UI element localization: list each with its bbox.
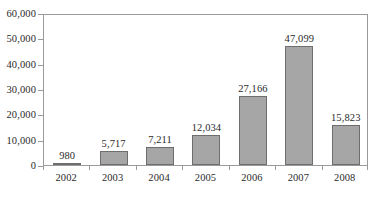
bar-group: 27,166 — [230, 15, 276, 165]
x-axis-tick-mark — [275, 166, 276, 170]
x-axis-tick-labels: 2002200320042005200620072008 — [43, 172, 368, 192]
y-axis-tick-label: 0 — [0, 161, 36, 171]
y-axis-tick-label: 40,000 — [0, 60, 36, 70]
bar-group: 980 — [44, 15, 90, 165]
bar — [239, 96, 267, 165]
bar-value-label: 7,211 — [148, 134, 172, 145]
plot-area: 9805,7177,21112,03427,16647,09915,823 — [43, 14, 368, 166]
bar-group: 47,099 — [276, 15, 322, 165]
bar — [146, 147, 174, 165]
bar — [192, 135, 220, 165]
bar-chart: 010,00020,00030,00040,00050,00060,000 98… — [0, 0, 378, 197]
bar-group: 5,717 — [90, 15, 136, 165]
bars-layer: 9805,7177,21112,03427,16647,09915,823 — [44, 15, 367, 165]
bar — [285, 46, 313, 165]
bar-group: 7,211 — [137, 15, 183, 165]
x-axis-tick-mark — [43, 166, 44, 170]
bar — [53, 163, 81, 165]
bar — [332, 125, 360, 165]
x-axis-tick-mark — [367, 166, 368, 170]
x-axis-tick-label: 2002 — [43, 172, 89, 184]
bar-value-label: 15,823 — [331, 112, 360, 123]
x-axis-tick-label: 2005 — [182, 172, 228, 184]
bar-value-label: 12,034 — [192, 122, 221, 133]
x-axis-tick-mark — [136, 166, 137, 170]
bar-group: 15,823 — [323, 15, 369, 165]
bar-group: 12,034 — [183, 15, 229, 165]
x-axis-tick-mark — [182, 166, 183, 170]
bar — [100, 151, 128, 165]
y-axis-tick-label: 30,000 — [0, 85, 36, 95]
bar-value-label: 47,099 — [285, 33, 314, 44]
y-axis-tick-label: 20,000 — [0, 110, 36, 120]
bar-value-label: 5,717 — [102, 138, 126, 149]
y-axis-tick-label: 10,000 — [0, 136, 36, 146]
bar-value-label: 27,166 — [238, 83, 267, 94]
y-axis-tick-label: 50,000 — [0, 34, 36, 44]
x-axis-tick-marks — [43, 166, 368, 171]
x-axis-tick-label: 2006 — [229, 172, 275, 184]
x-axis-tick-label: 2007 — [275, 172, 321, 184]
x-axis-tick-mark — [322, 166, 323, 170]
bar-value-label: 980 — [59, 150, 75, 161]
x-axis-tick-mark — [89, 166, 90, 170]
y-axis-tick-labels: 010,00020,00030,00040,00050,00060,000 — [0, 0, 36, 197]
x-axis-tick-mark — [229, 166, 230, 170]
x-axis-tick-label: 2003 — [89, 172, 135, 184]
x-axis-tick-label: 2004 — [136, 172, 182, 184]
y-axis-tick-label: 60,000 — [0, 9, 36, 19]
x-axis-tick-label: 2008 — [322, 172, 368, 184]
